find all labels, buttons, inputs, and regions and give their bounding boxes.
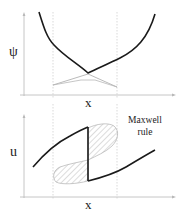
- maxwell-rule-annotation: Maxwell rule: [127, 116, 163, 137]
- top-gray-tangent-lower: [53, 80, 117, 87]
- annotation-line-2: rule: [127, 128, 163, 138]
- top-panel: [20, 12, 176, 98]
- diagram-canvas: [0, 0, 184, 213]
- top-y-label: ψ: [9, 45, 18, 59]
- bottom-y-axis-arrow-icon: [23, 114, 26, 118]
- annotation-line-1: Maxwell: [127, 116, 163, 126]
- top-free-energy-curve: [39, 12, 155, 73]
- top-y-axis-arrow-icon: [23, 12, 26, 16]
- bottom-y-label: u: [10, 145, 17, 159]
- bottom-x-axis-arrow-icon: [172, 196, 176, 199]
- bottom-branch-left: [33, 127, 88, 167]
- top-x-axis-arrow-icon: [172, 94, 176, 97]
- hatched-region-upper: [88, 124, 118, 160]
- hatched-region-lower: [54, 160, 88, 184]
- top-x-label: x: [85, 96, 92, 109]
- bottom-x-label: x: [85, 198, 92, 211]
- top-gray-tangent-upper: [53, 74, 117, 87]
